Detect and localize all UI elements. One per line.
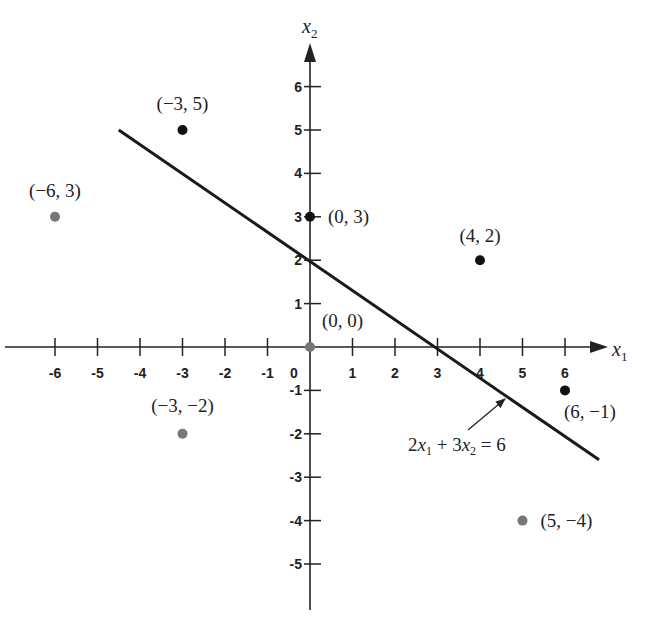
y-ticks: -5-4-3-2-1123456 [290,79,321,572]
y-tick-label: -4 [290,513,303,529]
point-label: (−6, 3) [29,180,81,202]
data-point [305,212,315,222]
point-label: (−3, −2) [151,395,214,417]
x-tick-label: -5 [91,365,104,381]
y-tick-label: 4 [294,165,302,181]
plot-area: x1 x2 -6-5-4-3-2-10123456 -5-4-3-2-11234… [0,0,645,626]
x-tick-label: 5 [519,365,527,381]
point-label: (0, 0) [322,310,363,332]
x-tick-label: 6 [561,365,569,381]
x-tick-label: 3 [434,365,442,381]
annotation-arrow-icon [468,399,505,430]
x-axis-title: x1 [611,338,627,364]
x-tick-label: -4 [134,365,147,381]
y-tick-label: 3 [294,209,302,225]
y-tick-label: 1 [294,296,302,312]
point-label: (6, −1) [564,401,616,423]
x-tick-label: -3 [176,365,189,381]
y-tick-label: -5 [290,556,303,572]
data-point [475,255,485,265]
data-point [560,385,570,395]
point-label: (−3, 5) [157,93,209,115]
x-axis: x1 [5,338,627,364]
point-label: (4, 2) [459,225,500,247]
data-point [518,516,528,526]
x-tick-label: 2 [391,365,399,381]
point-label: (0, 3) [328,206,369,228]
data-points: (−3, 5)(−6, 3)(0, 3)(4, 2)(0, 0)(6, −1)(… [29,93,616,532]
chart-canvas: x1 x2 -6-5-4-3-2-10123456 -5-4-3-2-11234… [0,0,645,626]
x-tick-label: -1 [261,365,274,381]
x-tick-label: -6 [49,365,62,381]
y-tick-label: 6 [294,79,302,95]
data-point [50,212,60,222]
x-tick-label: 1 [349,365,357,381]
x-tick-label: -2 [219,365,232,381]
y-axis-arrow-icon [304,43,316,62]
data-point [305,342,315,352]
data-point [178,125,188,135]
y-tick-label: -3 [290,469,303,485]
y-tick-label: 5 [294,122,302,138]
x-tick-label: 0 [290,365,298,381]
y-axis-title: x2 [301,15,317,41]
y-tick-label: -2 [290,426,303,442]
equation-label: 2x1 + 3x2 = 6 [408,434,506,458]
y-tick-label: -1 [290,382,303,398]
point-label: (5, −4) [541,510,593,532]
data-point [178,429,188,439]
x-axis-arrow-icon [590,341,608,353]
